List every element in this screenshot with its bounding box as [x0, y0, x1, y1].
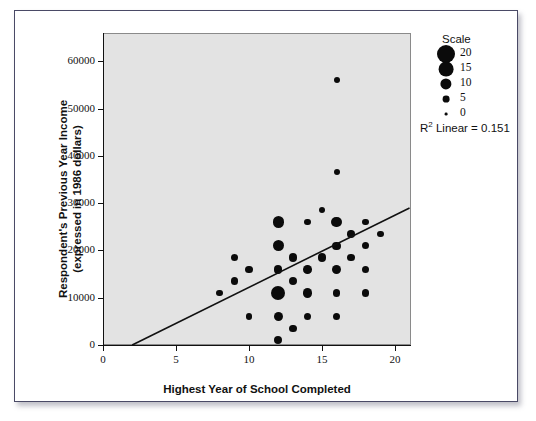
legend-bubble-marker — [439, 62, 454, 77]
legend-entry: 10 — [424, 77, 528, 92]
data-point — [347, 254, 355, 262]
x-axis-tick-label: 5 — [156, 353, 196, 365]
legend-entry-label: 5 — [460, 91, 466, 103]
x-axis-tick — [249, 346, 250, 351]
y-axis-tick — [98, 298, 103, 299]
data-point — [334, 169, 340, 175]
data-point — [274, 265, 283, 274]
x-axis-tick-label: 10 — [229, 353, 269, 365]
x-axis-tick — [322, 346, 323, 351]
legend-entry: 15 — [424, 62, 528, 77]
data-point — [347, 230, 355, 238]
data-point — [303, 288, 312, 297]
data-point — [231, 277, 239, 285]
legend-bubble-marker — [445, 113, 448, 116]
data-point — [334, 77, 340, 83]
legend-bubble-marker — [437, 45, 455, 63]
y-axis-tick — [98, 109, 103, 110]
legend-bubble-marker — [443, 96, 450, 103]
legend-title: Scale — [442, 33, 528, 45]
y-axis-title-line2: (expressed in 1986 dollars) — [70, 44, 84, 354]
x-axis-tick — [395, 346, 396, 351]
legend-entry-label: 15 — [460, 61, 472, 73]
y-axis-tick — [98, 250, 103, 251]
figure-root: 051015200100002000030000400005000060000 … — [0, 0, 536, 421]
y-axis-title: Respondent's Previous Year Income (expre… — [56, 44, 84, 354]
data-point — [289, 253, 297, 261]
data-point — [331, 217, 342, 228]
data-point — [303, 265, 312, 274]
x-axis-title: Highest Year of School Completed — [103, 383, 411, 395]
r-squared-suffix: Linear = 0.151 — [433, 122, 510, 134]
scale-legend: Scale 20151050 — [424, 33, 528, 122]
data-point — [273, 216, 284, 227]
legend-rows: 20151050 — [424, 47, 528, 122]
legend-bubble-marker — [440, 78, 451, 89]
y-axis-title-line1: Respondent's Previous Year Income — [56, 44, 70, 354]
x-axis-tick — [176, 346, 177, 351]
legend-entry-label: 10 — [460, 76, 472, 88]
data-point — [333, 289, 341, 297]
data-point — [245, 266, 253, 274]
y-axis-tick — [98, 61, 103, 62]
x-axis-tick-label: 20 — [375, 353, 415, 365]
data-point — [377, 231, 384, 238]
y-axis-tick — [98, 203, 103, 204]
x-axis-tick-label: 15 — [302, 353, 342, 365]
data-point — [332, 265, 341, 274]
legend-entry: 5 — [424, 92, 528, 107]
legend-entry-label: 20 — [460, 46, 472, 58]
x-axis-tick-label: 0 — [83, 353, 123, 365]
r-squared-annotation: R2 Linear = 0.151 — [420, 120, 510, 134]
y-axis-tick — [98, 156, 103, 157]
legend-entry-label: 0 — [460, 106, 466, 118]
y-axis-line — [103, 33, 104, 345]
scatter-chart: 051015200100002000030000400005000060000 … — [0, 0, 536, 421]
x-axis-tick — [103, 346, 104, 351]
data-point — [273, 240, 284, 251]
data-point — [289, 325, 297, 333]
data-point — [274, 312, 283, 321]
x-axis-line — [103, 345, 411, 346]
data-point — [318, 253, 326, 261]
data-point — [289, 277, 297, 285]
data-point — [332, 242, 340, 250]
plot-area — [103, 33, 411, 345]
y-axis-tick — [98, 345, 103, 346]
legend-entry: 20 — [424, 47, 528, 62]
data-point — [304, 219, 311, 226]
